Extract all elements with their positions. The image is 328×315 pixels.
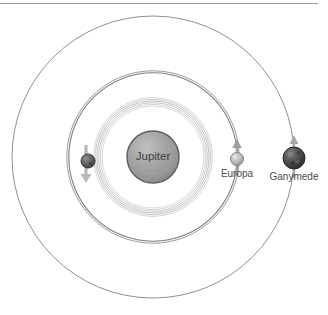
planet-label-jupiter: Jupiter — [130, 150, 176, 162]
moon-europa[interactable] — [231, 153, 244, 166]
moon-ganymede[interactable] — [283, 147, 305, 169]
moon-io[interactable] — [81, 154, 95, 168]
moon-label-europa: Europa — [215, 168, 259, 179]
moon-label-ganymede: Ganymede — [263, 171, 325, 182]
orbit-diagram-canvas: Jupiter Europa Ganymede — [0, 0, 328, 315]
